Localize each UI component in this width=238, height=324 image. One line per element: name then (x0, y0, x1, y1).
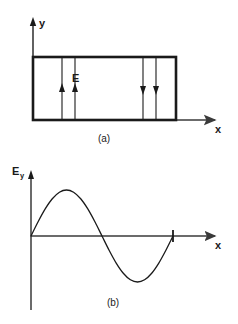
field-line-1-up (59, 58, 65, 119)
physics-figure: y x (0, 0, 238, 324)
panel-b: E y x (b) (12, 165, 222, 310)
electric-field-label: E (72, 72, 79, 84)
field-line-2-up (72, 58, 78, 119)
field-line-4-down (153, 58, 159, 119)
panel-b-caption: (b) (107, 297, 119, 308)
panel-b-y-axis-label: E (12, 165, 19, 177)
panel-a-y-axis-label: y (39, 17, 46, 29)
panel-a-x-axis-label: x (215, 123, 222, 135)
panel-a-caption: (a) (98, 133, 110, 144)
figure-root: y x (0, 0, 238, 324)
panel-a: y x (30, 17, 222, 144)
field-arrowhead-up (72, 83, 78, 92)
panel-b-y-axis-subscript: y (20, 171, 25, 180)
field-arrowhead-down (153, 86, 159, 95)
field-line-3-down (140, 58, 146, 119)
panel-b-x-axis-label: x (215, 239, 222, 251)
field-arrowhead-down (140, 86, 146, 95)
field-arrowhead-up (59, 83, 65, 92)
panel-b-y-axis-arrowhead (28, 170, 34, 179)
panel-b-y-axis (28, 170, 34, 310)
y-axis-arrowhead (30, 17, 36, 26)
